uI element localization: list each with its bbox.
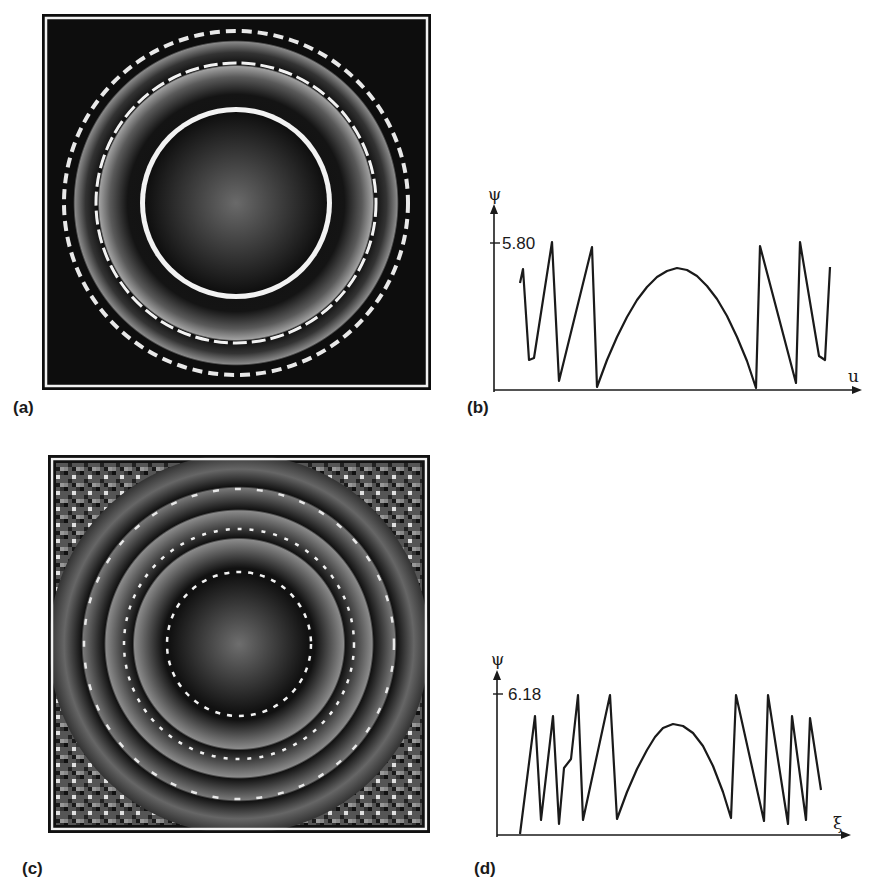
x-axis-d bbox=[497, 831, 851, 839]
phase-map-a bbox=[42, 14, 431, 390]
panel-label-c: (c) bbox=[22, 859, 43, 879]
y-axis-d bbox=[493, 670, 501, 837]
y-axis-b bbox=[490, 204, 498, 392]
profile-line-d bbox=[520, 695, 821, 834]
y-axis-symbol-b: ψ bbox=[488, 184, 501, 204]
y-axis-symbol-d: ψ bbox=[491, 649, 504, 669]
panel-label-a: (a) bbox=[13, 398, 34, 418]
x-axis-symbol-b: u bbox=[848, 366, 859, 386]
profile-line-b bbox=[520, 242, 830, 388]
panel-label-b: (b) bbox=[467, 398, 489, 418]
panel-label-d: (d) bbox=[474, 859, 496, 879]
x-axis-b bbox=[494, 386, 862, 394]
x-axis-symbol-d: ξ bbox=[833, 813, 842, 833]
y-tick-label-d: 6.18 bbox=[508, 685, 541, 704]
y-tick-label-b: 5.80 bbox=[502, 234, 535, 253]
phase-map-c bbox=[48, 455, 430, 833]
